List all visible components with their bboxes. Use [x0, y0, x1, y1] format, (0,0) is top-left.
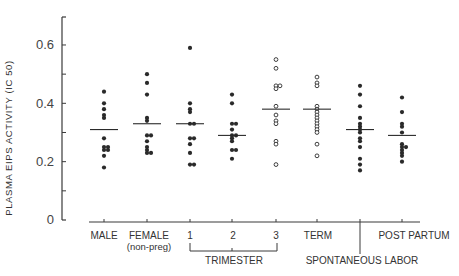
data-point	[358, 130, 362, 134]
data-point	[274, 87, 278, 91]
trimester-bracket	[190, 243, 277, 251]
y-tick-label-0.6: 0.6	[24, 37, 54, 52]
data-point	[315, 75, 319, 79]
data-point	[230, 139, 234, 143]
data-point	[145, 72, 149, 76]
data-point	[400, 130, 404, 134]
data-point	[315, 84, 319, 88]
x-label-post-partum: POST PARTUM	[378, 230, 449, 241]
data-point	[400, 154, 404, 158]
data-point	[188, 151, 192, 155]
data-point	[149, 133, 153, 137]
data-point	[315, 142, 319, 146]
data-point	[145, 139, 149, 143]
data-point	[102, 154, 106, 158]
y-tick-label-0.2: 0.2	[24, 154, 54, 169]
data-point	[102, 165, 106, 169]
data-point	[102, 136, 106, 140]
data-point	[274, 163, 278, 167]
data-point	[188, 142, 192, 146]
data-point	[102, 90, 106, 94]
x-label-trimester-2: 2	[230, 230, 236, 241]
data-point	[145, 151, 149, 155]
data-point	[400, 160, 404, 164]
mean-lines	[90, 109, 416, 135]
data-point	[358, 168, 362, 172]
data-point	[102, 148, 106, 152]
data-point	[234, 122, 238, 126]
data-point	[188, 162, 192, 166]
data-point	[230, 127, 234, 131]
data-point	[400, 95, 404, 99]
data-point	[400, 125, 404, 129]
data-point	[274, 104, 278, 108]
x-label-trimester-1: 1	[187, 230, 193, 241]
data-point	[188, 110, 192, 114]
data-point	[358, 92, 362, 96]
data-point	[188, 136, 192, 140]
data-point	[404, 145, 408, 149]
data-point	[358, 116, 362, 120]
group-label-spontaneous-labor: SPONTANEOUS LABOR	[306, 255, 419, 266]
chart: PLASMA EIPS ACTIVITY (IC 50) 0 0.2 0.4 0…	[0, 0, 459, 276]
data-point	[102, 116, 106, 120]
data-point	[358, 145, 362, 149]
x-label-male: MALE	[90, 230, 117, 241]
data-point	[106, 148, 110, 152]
data-point	[274, 142, 278, 146]
y-tick-label-0.4: 0.4	[24, 96, 54, 111]
y-axis-label: PLASMA EIPS ACTIVITY (IC 50)	[3, 60, 14, 215]
data-points	[102, 46, 408, 173]
data-point	[274, 122, 278, 126]
data-point	[145, 81, 149, 85]
data-point	[230, 122, 234, 126]
data-point	[400, 110, 404, 114]
data-point	[230, 101, 234, 105]
y-tick-label-0: 0	[24, 212, 54, 227]
data-point	[145, 119, 149, 123]
data-point	[358, 104, 362, 108]
data-point	[230, 157, 234, 161]
data-point	[315, 131, 319, 135]
data-point	[274, 113, 278, 117]
data-point	[274, 58, 278, 62]
data-point	[188, 101, 192, 105]
data-point	[230, 92, 234, 96]
data-point	[234, 148, 238, 152]
group-label-trimester: TRIMESTER	[205, 255, 263, 266]
x-label-term: TERM	[304, 230, 332, 241]
data-point	[358, 157, 362, 161]
data-point	[192, 162, 196, 166]
data-point	[102, 107, 106, 111]
data-point	[358, 162, 362, 166]
data-point	[149, 151, 153, 155]
data-point	[358, 139, 362, 143]
x-label-female-main: FEMALE	[129, 230, 169, 241]
data-point	[145, 133, 149, 137]
data-point	[278, 84, 282, 88]
data-point	[188, 46, 192, 50]
x-label-female: FEMALE (non-preg)	[127, 230, 171, 252]
x-label-trimester-3: 3	[273, 230, 279, 241]
data-point	[274, 66, 278, 70]
data-point	[192, 136, 196, 140]
data-point	[358, 84, 362, 88]
data-point	[315, 154, 319, 158]
data-point	[102, 101, 106, 105]
data-point	[230, 148, 234, 152]
x-label-female-sub: (non-preg)	[127, 241, 171, 252]
data-point	[145, 92, 149, 96]
